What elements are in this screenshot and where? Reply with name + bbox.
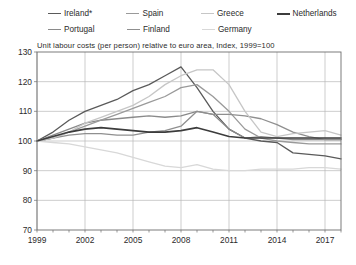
series-line-spain [37,85,341,144]
y-tick-label: 130 [18,47,32,57]
y-tick-label: 100 [18,136,32,146]
x-tick-label: 2002 [76,235,95,245]
x-axis-labels: 1999200220052008201120142017 [28,235,335,245]
chart-plot: 708090100110120130 199920022005200820112… [0,0,356,265]
y-tick-label: 70 [23,225,33,235]
series-line-portugal [37,111,341,141]
gridlines [37,52,341,230]
x-tick-label: 2014 [268,235,287,245]
y-tick-label: 90 [23,166,33,176]
x-tick-label: 2011 [220,235,238,245]
x-tick-label: 2008 [172,235,191,245]
y-tick-label: 80 [23,195,33,205]
x-tick-label: 1999 [28,235,47,245]
data-series-group [37,67,341,171]
series-line-finland [37,111,341,141]
x-tick-label: 2017 [316,235,335,245]
y-tick-label: 110 [19,106,33,116]
chart-container: Ireland* Spain Greece Netherlands Portug… [0,0,356,265]
x-tick-label: 2005 [124,235,143,245]
series-line-germany [37,141,341,171]
y-tick-label: 120 [18,77,32,87]
series-line-ireland [37,67,341,159]
y-axis-labels: 708090100110120130 [18,47,32,235]
